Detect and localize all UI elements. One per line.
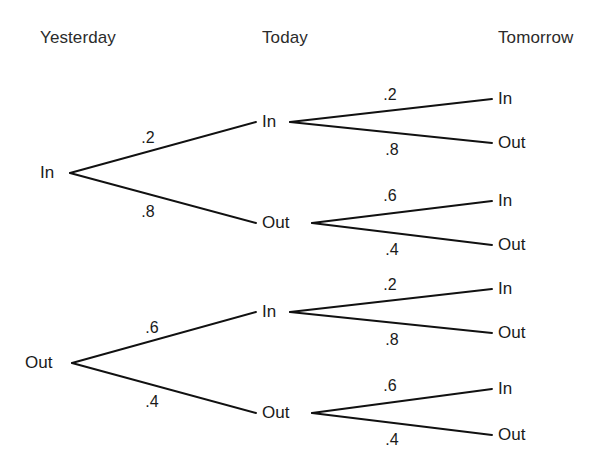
edge-out-to-in [72, 312, 256, 363]
edge-out-out-to-in [312, 389, 492, 413]
probability-out-in-to-out: .8 [385, 331, 398, 349]
edge-out-out-to-out [312, 413, 492, 435]
edge-out-in-to-out [290, 312, 492, 333]
probability-out-in-to-in: .2 [383, 276, 396, 294]
probability-in-in-to-out: .8 [385, 141, 398, 159]
leaf-in-in-to-in: In [498, 89, 512, 109]
leaf-out-in-to-in: In [498, 279, 512, 299]
node-in-to-out: Out [262, 213, 289, 233]
edge-in-to-in [70, 122, 256, 173]
probability-in-to-in: .2 [141, 129, 154, 147]
node-out-to-out: Out [262, 403, 289, 423]
edge-in-to-out [70, 173, 256, 223]
probability-out-to-in: .6 [145, 319, 158, 337]
leaf-out-out-to-out: Out [498, 425, 525, 445]
probability-in-out-to-in: .6 [383, 187, 396, 205]
leaf-out-out-to-in: In [498, 379, 512, 399]
probability-out-out-to-in: .6 [383, 377, 396, 395]
column-header-tomorrow: Tomorrow [498, 28, 573, 48]
probability-in-in-to-in: .2 [383, 86, 396, 104]
edge-out-to-out [72, 363, 256, 413]
root-node-yesterday-in: In [40, 163, 54, 183]
leaf-in-in-to-out: Out [498, 133, 525, 153]
probability-in-to-out: .8 [141, 203, 154, 221]
root-node-yesterday-out: Out [25, 353, 52, 373]
edge-in-out-to-in [312, 201, 492, 223]
leaf-out-in-to-out: Out [498, 323, 525, 343]
leaf-in-out-to-out: Out [498, 235, 525, 255]
probability-out-to-out: .4 [145, 393, 158, 411]
probability-in-out-to-out: .4 [385, 241, 398, 259]
edge-in-out-to-out [312, 223, 492, 245]
probability-out-out-to-out: .4 [385, 431, 398, 449]
column-header-today: Today [262, 28, 308, 48]
column-header-yesterday: Yesterday [40, 28, 116, 48]
figure-canvas: YesterdayTodayTomorrow In.2In.2In.8Out.8… [0, 0, 612, 475]
node-in-to-in: In [262, 112, 276, 132]
edge-in-in-to-out [290, 122, 492, 143]
leaf-in-out-to-in: In [498, 191, 512, 211]
node-out-to-in: In [262, 302, 276, 322]
